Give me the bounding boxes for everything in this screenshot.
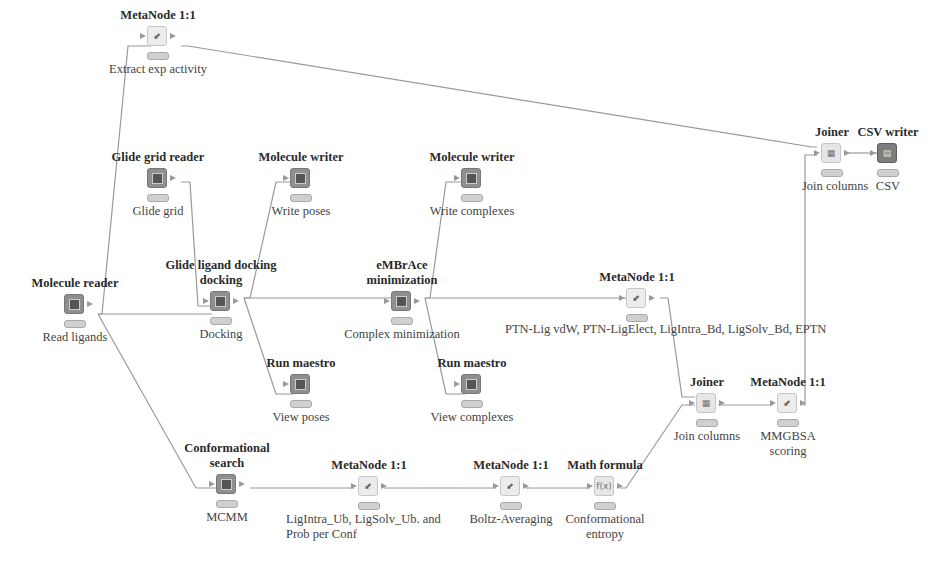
output-port[interactable] xyxy=(87,301,93,307)
node-write-poses[interactable]: Molecule writer Write poses xyxy=(236,150,366,219)
status-indicator xyxy=(210,317,232,325)
schrodinger-node-icon xyxy=(461,168,481,188)
node-description: Glide grid xyxy=(93,204,223,219)
node-csv-writer[interactable]: CSV writer ▤ CSV xyxy=(853,125,923,194)
status-indicator xyxy=(147,194,169,202)
node-title: Conformationalsearch xyxy=(162,441,292,471)
input-port[interactable] xyxy=(814,150,820,156)
schrodinger-node-icon xyxy=(290,168,310,188)
status-indicator xyxy=(777,419,799,427)
node-math-formula[interactable]: Math formula f(x) Conformationalentropy xyxy=(540,458,670,542)
node-view-poses[interactable]: Run maestro View poses xyxy=(236,356,366,425)
output-port[interactable] xyxy=(844,150,850,156)
output-port[interactable] xyxy=(649,295,655,301)
node-description: Complex minimization xyxy=(337,327,467,342)
input-port[interactable] xyxy=(283,175,289,181)
schrodinger-node-icon xyxy=(461,374,481,394)
status-indicator xyxy=(64,320,86,328)
node-description: Write poses xyxy=(236,204,366,219)
node-description: Read ligands xyxy=(10,330,140,345)
output-port[interactable] xyxy=(800,400,806,406)
input-port[interactable] xyxy=(587,483,593,489)
node-title: MetaNode 1:1 xyxy=(723,375,853,390)
math-formula-icon: f(x) xyxy=(594,476,614,496)
node-title: CSV writer xyxy=(853,125,923,140)
input-port[interactable] xyxy=(209,481,215,487)
input-port[interactable] xyxy=(870,150,876,156)
status-indicator xyxy=(877,169,899,177)
schrodinger-node-icon xyxy=(210,291,230,311)
node-description: MMGBSAscoring xyxy=(723,429,853,459)
node-conformational-search[interactable]: Conformationalsearch MCMM xyxy=(162,441,292,525)
node-embrace-minimization[interactable]: eMBrAceminimization Complex minimization xyxy=(337,258,467,342)
node-description: PTN-Lig vdW, PTN-LigElect, LigIntra_Bd, … xyxy=(505,322,826,337)
node-mmgbsa-scoring[interactable]: MetaNode 1:1 ⬋ MMGBSAscoring xyxy=(723,375,853,459)
node-title: MetaNode 1:1 xyxy=(572,270,702,285)
input-port[interactable] xyxy=(283,381,289,387)
node-description: View poses xyxy=(236,410,366,425)
node-description: LigIntra_Ub, LigSolv_Ub. andProb per Con… xyxy=(284,512,454,542)
input-port[interactable] xyxy=(619,295,625,301)
schrodinger-node-icon xyxy=(290,374,310,394)
status-indicator xyxy=(500,502,522,510)
status-indicator xyxy=(147,52,169,60)
input-port[interactable] xyxy=(351,483,357,489)
node-ptn-lig-metanode[interactable]: MetaNode 1:1 ⬋ xyxy=(617,270,657,322)
status-indicator xyxy=(290,194,312,202)
metanode-icon: ⬋ xyxy=(500,476,520,496)
node-title: MetaNode 1:1 xyxy=(93,8,223,23)
output-port[interactable] xyxy=(170,33,176,39)
node-description: MCMM xyxy=(162,510,292,525)
workflow-canvas: MetaNode 1:1 ⬋ Extract exp activity Glid… xyxy=(0,0,948,580)
output-port[interactable] xyxy=(414,298,420,304)
node-description: CSV xyxy=(853,179,923,194)
node-glide-grid-reader[interactable]: Glide grid reader Glide grid xyxy=(93,150,223,219)
status-indicator xyxy=(594,502,616,510)
status-indicator xyxy=(821,169,843,177)
metanode-icon: ⬋ xyxy=(358,476,378,496)
input-port[interactable] xyxy=(203,298,209,304)
metanode-icon: ⬋ xyxy=(147,26,167,46)
input-port[interactable] xyxy=(454,175,460,181)
node-title: Math formula xyxy=(540,458,670,473)
input-port[interactable] xyxy=(384,298,390,304)
status-indicator xyxy=(216,500,238,508)
status-indicator xyxy=(290,400,312,408)
node-molecule-reader[interactable]: Molecule reader Read ligands xyxy=(10,276,140,345)
output-port[interactable] xyxy=(239,481,245,487)
node-title: eMBrAceminimization xyxy=(337,258,467,288)
input-port[interactable] xyxy=(770,400,776,406)
output-port[interactable] xyxy=(170,175,176,181)
metanode-icon: ⬋ xyxy=(777,393,797,413)
input-port[interactable] xyxy=(140,33,146,39)
joiner-icon: ▦ xyxy=(821,143,841,163)
node-description: Write complexes xyxy=(407,204,537,219)
output-port[interactable] xyxy=(523,483,529,489)
node-glide-ligand-docking[interactable]: Glide ligand dockingdocking Docking xyxy=(156,258,286,342)
schrodinger-node-icon xyxy=(147,168,167,188)
input-port[interactable] xyxy=(689,400,695,406)
status-indicator xyxy=(696,419,718,427)
output-port[interactable] xyxy=(233,298,239,304)
node-write-complexes[interactable]: Molecule writer Write complexes xyxy=(407,150,537,219)
output-port[interactable] xyxy=(617,483,623,489)
input-port[interactable] xyxy=(454,381,460,387)
node-title: Molecule reader xyxy=(10,276,140,291)
node-view-complexes[interactable]: Run maestro View complexes xyxy=(407,356,537,425)
status-indicator xyxy=(461,400,483,408)
schrodinger-node-icon xyxy=(216,474,236,494)
node-description: Conformationalentropy xyxy=(540,512,670,542)
input-port[interactable] xyxy=(493,483,499,489)
node-description: Docking xyxy=(156,327,286,342)
node-prob-per-conf[interactable]: MetaNode 1:1 ⬋ LigIntra_Ub, LigSolv_Ub. … xyxy=(284,458,454,542)
node-description: Extract exp activity xyxy=(93,62,223,77)
status-indicator xyxy=(461,194,483,202)
status-indicator xyxy=(391,317,413,325)
joiner-icon: ▦ xyxy=(696,393,716,413)
metanode-icon: ⬋ xyxy=(626,288,646,308)
node-title: Molecule writer xyxy=(407,150,537,165)
output-port[interactable] xyxy=(381,483,387,489)
node-extract-exp-activity[interactable]: MetaNode 1:1 ⬋ Extract exp activity xyxy=(93,8,223,77)
node-description: View complexes xyxy=(407,410,537,425)
node-title: Molecule writer xyxy=(236,150,366,165)
